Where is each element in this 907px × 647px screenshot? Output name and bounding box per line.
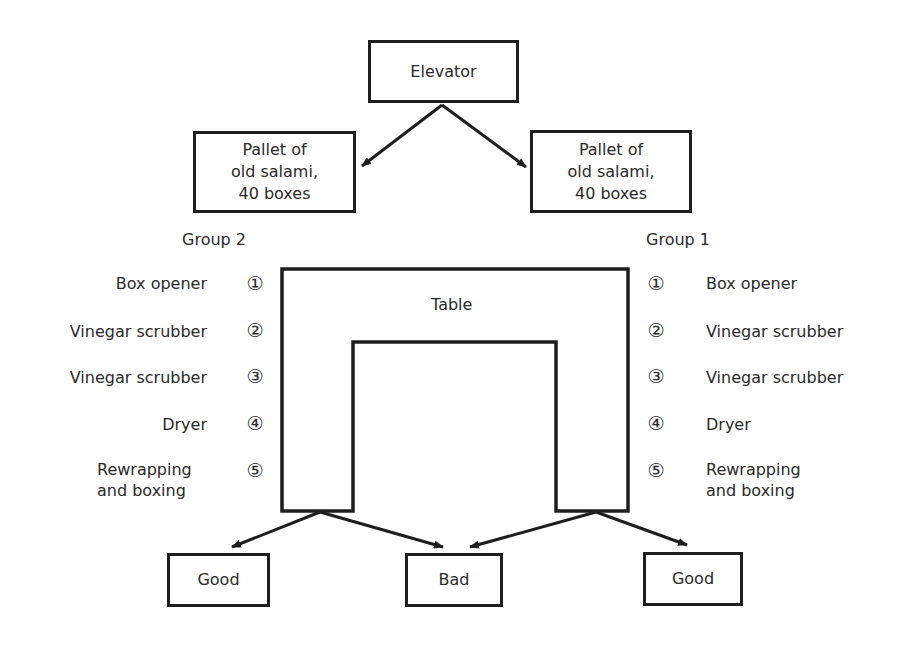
arrow-left-to-good (232, 512, 320, 547)
bad-label: Bad (439, 569, 470, 591)
arrow-elevator-to-left-pallet (362, 105, 442, 166)
arrow-left-to-bad (320, 512, 443, 547)
group-right-station-3-label: Vinegar scrubber (706, 368, 843, 388)
bad-box: Bad (405, 553, 503, 607)
pallet-left-line3: 40 boxes (238, 183, 310, 205)
group-right-station-5-label: Rewrapping (706, 460, 801, 480)
arrow-elevator-to-right-pallet (442, 105, 526, 167)
group-right-station-3-number: ③ (644, 366, 668, 386)
group-right-station-1-number: ① (644, 273, 668, 293)
group-right-station-4-label: Dryer (706, 415, 751, 435)
group-left-station-4-label: Dryer (162, 415, 207, 435)
group-left-station-5-number: ⑤ (243, 460, 267, 480)
pallet-left-line2: old salami, (231, 161, 318, 183)
group-left-station-1-number: ① (243, 273, 267, 293)
arrow-right-to-good (596, 512, 687, 545)
good-left-label: Good (197, 569, 239, 591)
pallet-right-line2: old salami, (568, 161, 655, 183)
group-left-station-3-label: Vinegar scrubber (70, 368, 207, 388)
group-left-station-2-number: ② (243, 320, 267, 340)
pallet-right-box: Pallet of old salami, 40 boxes (530, 130, 692, 213)
group-right-station-5-label2: and boxing (706, 481, 795, 501)
group-right-title: Group 1 (646, 230, 710, 250)
group-left-station-3-number: ③ (243, 366, 267, 386)
group-right-station-5-number: ⑤ (644, 460, 668, 480)
group-right-station-4-number: ④ (644, 413, 668, 433)
group-left-station-4-number: ④ (243, 413, 267, 433)
elevator-label: Elevator (410, 61, 476, 83)
group-left-title: Group 2 (182, 230, 246, 250)
pallet-left-line1: Pallet of (242, 139, 306, 161)
table-label: Table (431, 295, 472, 315)
good-right-label: Good (672, 568, 714, 590)
pallet-right-line3: 40 boxes (575, 183, 647, 205)
group-right-station-2-label: Vinegar scrubber (706, 322, 843, 342)
group-left-station-2-label: Vinegar scrubber (70, 322, 207, 342)
good-right-box: Good (643, 552, 743, 606)
pallet-left-box: Pallet of old salami, 40 boxes (193, 131, 356, 213)
group-left-station-1-label: Box opener (116, 274, 207, 294)
pallet-right-line1: Pallet of (579, 139, 643, 161)
arrow-right-to-bad (470, 512, 596, 547)
group-right-station-2-number: ② (644, 320, 668, 340)
elevator-box: Elevator (368, 40, 519, 103)
group-left-station-5-label2: and boxing (97, 481, 186, 501)
group-right-station-1-label: Box opener (706, 274, 797, 294)
good-left-box: Good (167, 553, 270, 607)
group-left-station-5-label: Rewrapping (97, 460, 192, 480)
